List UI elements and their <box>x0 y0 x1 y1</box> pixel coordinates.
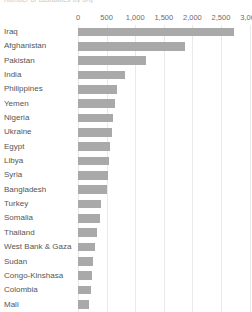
x-axis-tick-1500: 1,500 <box>154 13 173 22</box>
bar <box>78 271 92 280</box>
bar-row: Congo-Kinshasa <box>0 269 252 283</box>
category-label: Sudan <box>4 256 27 267</box>
bar <box>78 200 101 209</box>
category-label: Mali <box>4 299 19 310</box>
category-label: Bangladesh <box>4 184 46 195</box>
bar-rows: IraqAfghanistanPakistanIndiaPhilippinesY… <box>0 25 252 312</box>
bar-track <box>78 271 252 280</box>
bar <box>78 56 146 65</box>
category-label: Congo-Kinshasa <box>4 270 63 281</box>
x-axis-tick-1000: 1,000 <box>126 13 145 22</box>
bar-row: Thailand <box>0 226 252 240</box>
category-label: Iraq <box>4 26 18 37</box>
bar-row: Philippines <box>0 82 252 96</box>
bar <box>78 286 91 295</box>
bar-track <box>78 142 252 151</box>
bar-track <box>78 257 252 266</box>
bar-row: Somalia <box>0 211 252 225</box>
bar-row: India <box>0 68 252 82</box>
bar <box>78 99 115 108</box>
bar-row: Yemen <box>0 97 252 111</box>
category-label: Libya <box>4 155 23 166</box>
category-label: Ukraine <box>4 126 32 137</box>
x-axis-tick-500: 500 <box>100 13 113 22</box>
bar-track <box>78 42 252 51</box>
bar <box>78 257 93 266</box>
bar-track <box>78 128 252 137</box>
plot-area: 05001,0001,5002,0002,5003,000 IraqAfghan… <box>0 13 252 312</box>
bar-row: Libya <box>0 154 252 168</box>
bar-row: Syria <box>0 168 252 182</box>
bar-track <box>78 185 252 194</box>
bar-track <box>78 228 252 237</box>
bar <box>78 171 108 180</box>
bar-row: Bangladesh <box>0 183 252 197</box>
bar-track <box>78 28 252 37</box>
bar <box>78 228 97 237</box>
category-label: Egypt <box>4 141 24 152</box>
bar-track <box>78 114 252 123</box>
category-label: Colombia <box>4 284 38 295</box>
bar-track <box>78 71 252 80</box>
bar-row: Ukraine <box>0 125 252 139</box>
x-axis-tick-2000: 2,000 <box>183 13 202 22</box>
chart-title: number of casualties by org <box>4 0 93 3</box>
category-label: Yemen <box>4 98 29 109</box>
bar-row: Afghanistan <box>0 39 252 53</box>
bar-track <box>78 200 252 209</box>
bar-track <box>78 214 252 223</box>
category-label: Philippines <box>4 83 43 94</box>
category-label: Turkey <box>4 198 28 209</box>
bar-track <box>78 171 252 180</box>
bar <box>78 185 107 194</box>
bar-track <box>78 56 252 65</box>
bar-row: Turkey <box>0 197 252 211</box>
bar <box>78 42 185 51</box>
bar <box>78 214 100 223</box>
bar-track <box>78 99 252 108</box>
bar-row: Mali <box>0 298 252 312</box>
bar <box>78 243 95 252</box>
bar <box>78 300 89 309</box>
bar-track <box>78 157 252 166</box>
category-label: Thailand <box>4 227 35 238</box>
bar <box>78 85 117 94</box>
category-label: Afghanistan <box>4 40 46 51</box>
category-label: Somalia <box>4 212 33 223</box>
bar-row: Pakistan <box>0 54 252 68</box>
bar <box>78 157 109 166</box>
bar-row: Iraq <box>0 25 252 39</box>
bar <box>78 114 113 123</box>
bar-track <box>78 85 252 94</box>
x-axis-tick-labels: 05001,0001,5002,0002,5003,000 <box>0 13 252 25</box>
bar-track <box>78 243 252 252</box>
bar-row: Sudan <box>0 255 252 269</box>
bar <box>78 128 112 137</box>
bar-row: Colombia <box>0 283 252 297</box>
bar-track <box>78 286 252 295</box>
category-label: Pakistan <box>4 55 35 66</box>
category-label: West Bank & Gaza <box>4 241 71 252</box>
bar-row: Egypt <box>0 140 252 154</box>
bar-track <box>78 300 252 309</box>
category-label: India <box>4 69 21 80</box>
x-axis-tick-0: 0 <box>76 13 80 22</box>
x-axis-tick-3000: 3,000 <box>240 13 252 22</box>
bar-row: Nigeria <box>0 111 252 125</box>
bar-chart: number of casualties by org 05001,0001,5… <box>0 0 252 312</box>
bar <box>78 142 110 151</box>
category-label: Nigeria <box>4 112 29 123</box>
category-label: Syria <box>4 169 22 180</box>
bar <box>78 28 234 37</box>
bar-row: West Bank & Gaza <box>0 240 252 254</box>
x-axis-tick-2500: 2,500 <box>212 13 231 22</box>
bar <box>78 71 125 80</box>
